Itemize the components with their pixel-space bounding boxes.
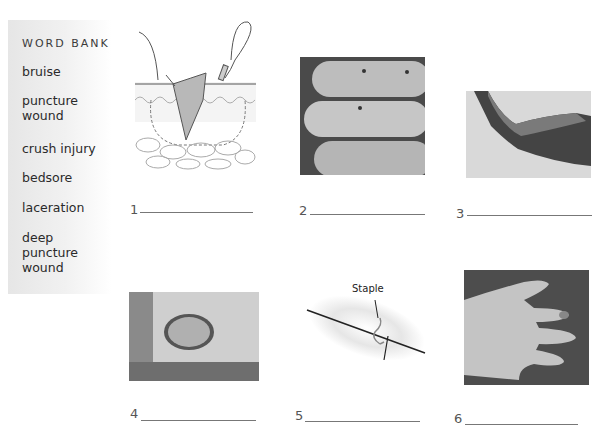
figure-1-skin-diagram (133, 20, 258, 170)
answer-line-2[interactable] (310, 214, 425, 215)
word-bank-panel: WORD BANK bruise puncture wound crush in… (8, 20, 112, 294)
figure-3-arm-photo (466, 91, 591, 178)
answer-line-4[interactable] (141, 420, 256, 421)
figure-4-bedsore-photo (129, 292, 259, 381)
word-bank-item: puncture wound (22, 93, 78, 123)
word-bank-item: deep puncture wound (22, 230, 78, 275)
figure-6-hand-photo (464, 270, 589, 385)
answer-line-1[interactable] (140, 212, 253, 213)
figure-4-number: 4 (130, 406, 138, 421)
word-bank-item: crush injury (22, 141, 96, 156)
figure-1-number: 1 (130, 202, 138, 217)
staple-label: Staple (352, 283, 384, 294)
answer-line-6[interactable] (465, 424, 578, 425)
word-bank-item: bedsore (22, 170, 72, 185)
figure-2-fingers-photo (300, 57, 425, 175)
figure-2-number: 2 (299, 203, 307, 218)
answer-line-5[interactable] (305, 421, 420, 422)
answer-line-3[interactable] (467, 215, 592, 216)
word-bank-title: WORD BANK (22, 37, 110, 50)
figure-6-number: 6 (454, 411, 462, 426)
word-bank-item: bruise (22, 64, 61, 79)
figure-5-number: 5 (295, 408, 303, 423)
figure-3-number: 3 (456, 206, 464, 221)
word-bank-item: laceration (22, 200, 84, 215)
